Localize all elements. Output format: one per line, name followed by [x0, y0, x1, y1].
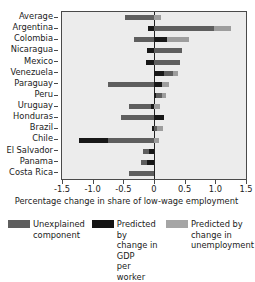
bar-segment — [129, 104, 150, 109]
bar-row — [62, 146, 246, 157]
legend-item-gdp: Predicted by change in GDP per worker — [92, 219, 159, 282]
y-tick-label: Uruguay — [18, 100, 53, 111]
bar-segment — [154, 48, 182, 53]
bar-segment — [164, 71, 173, 76]
bar-segment — [167, 37, 188, 42]
bar-row — [62, 57, 246, 68]
legend-line-3: unemployment — [191, 240, 254, 250]
bar-segment — [154, 26, 214, 31]
bar-row — [62, 101, 246, 112]
bar-segment — [125, 15, 154, 20]
y-tick-label: Costa Rica — [9, 167, 53, 178]
legend-label-gdp: Predicted by change in GDP per worker — [117, 219, 159, 282]
unemployment-swatch-icon — [166, 220, 188, 228]
y-tick-mark — [54, 161, 58, 162]
x-tick-label: 1.0 — [209, 184, 222, 194]
bar-segment — [214, 26, 231, 31]
y-tick-mark — [54, 28, 58, 29]
y-tick-label: El Salvador — [6, 145, 53, 156]
bar-segment — [129, 171, 154, 176]
bar-segment — [79, 138, 108, 143]
legend-line-2: change in — [191, 230, 232, 240]
y-tick-mark — [54, 128, 58, 129]
y-tick-mark — [54, 150, 58, 151]
legend-item-unexplained: Unexplained component — [8, 219, 85, 240]
y-tick-label: Mexico — [24, 56, 53, 67]
x-tick-label: -1.5 — [54, 184, 70, 194]
y-tick-label: Chile — [32, 133, 53, 144]
bar-segment — [121, 115, 154, 120]
bar-segment — [149, 149, 154, 154]
bar-row — [62, 34, 246, 45]
bar-row — [62, 168, 246, 179]
x-tick-label: 0.5 — [178, 184, 191, 194]
y-tick-label: Peru — [35, 89, 53, 100]
y-tick-label: Brazil — [30, 122, 53, 133]
bar-row — [62, 79, 246, 90]
legend-line-2: component — [33, 230, 80, 240]
y-tick-label: Nicaragua — [11, 44, 53, 55]
y-tick-label: Honduras — [13, 111, 53, 122]
y-tick-mark — [54, 139, 58, 140]
bar-row — [62, 68, 246, 79]
bar-segment — [154, 37, 167, 42]
y-tick-mark — [54, 39, 58, 40]
unexplained-swatch-icon — [8, 220, 30, 228]
y-tick-mark — [54, 106, 58, 107]
x-tick-label: -1.0 — [85, 184, 101, 194]
bar-segment — [154, 138, 159, 143]
bar-row — [62, 134, 246, 145]
bar-segment — [162, 82, 169, 87]
bar-row — [62, 157, 246, 168]
y-tick-label: Venezuela — [10, 67, 53, 78]
x-tick-label: -0.5 — [115, 184, 131, 194]
bar-segment — [173, 71, 178, 76]
y-tick-mark — [54, 72, 58, 73]
bar-segment — [108, 138, 154, 143]
y-tick-label: Average — [19, 11, 53, 22]
legend-line-1: Predicted by — [117, 219, 156, 240]
bar-segment — [157, 126, 163, 131]
y-tick-mark — [54, 172, 58, 173]
y-axis-labels: AverageArgentinaColombiaNicaraguaMexicoV… — [0, 11, 58, 180]
bar-segment — [108, 82, 154, 87]
bar-segment — [147, 48, 154, 53]
bar-segment — [154, 60, 180, 65]
bar-segment — [154, 115, 164, 120]
gdp-swatch-icon — [92, 220, 114, 228]
bar-segment — [134, 37, 154, 42]
y-tick-mark — [54, 83, 58, 84]
legend-item-unemployment: Predicted by change in unemployment — [166, 219, 248, 251]
bar-row — [62, 45, 246, 56]
legend-line-2: change in GDP — [117, 240, 158, 261]
y-tick-mark — [54, 50, 58, 51]
x-tick-label: 1.5 — [239, 184, 252, 194]
legend-line-3: per worker — [117, 261, 145, 282]
x-axis-ticks: -1.5-1.0-0.500.51.01.5 — [61, 180, 247, 185]
y-tick-label: Panama — [20, 156, 53, 167]
bar-segment — [154, 71, 164, 76]
y-tick-label: Argentina — [13, 22, 53, 33]
bar-segment — [154, 104, 160, 109]
y-tick-mark — [54, 95, 58, 96]
y-tick-label: Colombia — [14, 33, 53, 44]
bar-segment — [146, 60, 154, 65]
bar-row — [62, 90, 246, 101]
bar-segment — [154, 15, 161, 20]
bar-segment — [147, 160, 154, 165]
y-tick-mark — [54, 61, 58, 62]
x-tick-label: 0 — [151, 184, 156, 194]
plot-area — [61, 11, 247, 180]
bar-row — [62, 12, 246, 23]
y-tick-mark — [54, 17, 58, 18]
bar-row — [62, 123, 246, 134]
legend-line-1: Predicted by — [191, 219, 243, 229]
bar-row — [62, 112, 246, 123]
bar-segment — [162, 93, 166, 98]
legend-label-unexplained: Unexplained component — [33, 219, 85, 240]
bar-segment — [154, 82, 162, 87]
legend-label-unemployment: Predicted by change in unemployment — [191, 219, 254, 251]
legend-line-1: Unexplained — [33, 219, 85, 229]
y-tick-label: Paraguay — [14, 78, 53, 89]
